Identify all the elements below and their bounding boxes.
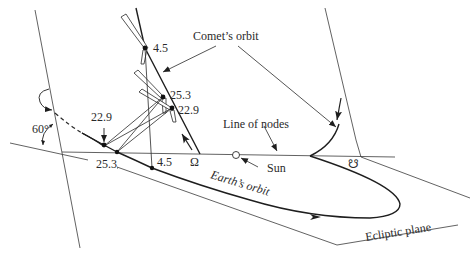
- label-comets-orbit: Comet’s orbit: [193, 29, 259, 43]
- comet-dot-4-5: [143, 46, 148, 51]
- label-sun: Sun: [267, 161, 286, 175]
- label-comet-22-9: 22.9: [178, 103, 199, 117]
- label-ascending-node: Ω: [190, 155, 199, 169]
- label-comet-25-3: 25.3: [170, 88, 191, 102]
- comet-dot-25-3: [161, 95, 166, 100]
- label-descending-node: ☋: [348, 157, 359, 171]
- label-earth-4-5: 4.5: [157, 155, 172, 169]
- label-comet-4-5: 4.5: [153, 41, 168, 55]
- label-ecliptic-plane: Ecliptic plane: [364, 220, 432, 244]
- comet-orbit-leader-1: [163, 46, 216, 72]
- label-earth-25-3: 25.3: [96, 157, 117, 171]
- sun-marker: [233, 152, 240, 159]
- comet-plane-right-base: [356, 140, 361, 157]
- comet-dot-22-9: [170, 106, 175, 111]
- comet-orbit-dashed: [55, 113, 82, 133]
- label-earths-orbit: Earth’s orbit: [208, 167, 272, 199]
- rotation-arrow: [39, 89, 52, 110]
- label-inclination: 60°: [32, 122, 49, 136]
- label-earth-22-9: 22.9: [91, 110, 112, 124]
- comet-orbit-right-arc: [310, 124, 339, 156]
- comet-direction-arrow-right: [337, 98, 341, 120]
- earth-dot-4-5: [150, 166, 154, 170]
- earth-dot-25-3: [115, 150, 119, 154]
- comet-orbit-diagram: Comet’s orbit Line of nodes Sun Earth’s …: [0, 0, 474, 253]
- label-line-of-nodes: Line of nodes: [223, 117, 289, 131]
- comet-plane-right-edge: [325, 8, 356, 140]
- comet-orbit-leader-2: [238, 46, 336, 127]
- sun-leader: [241, 158, 258, 167]
- earth-dot-22-9: [102, 143, 107, 148]
